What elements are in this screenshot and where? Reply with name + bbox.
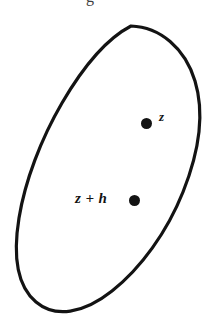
- point-marker-z: [141, 118, 152, 129]
- region-boundary-svg: [0, 0, 216, 325]
- figure-canvas: g z z + h: [0, 0, 216, 325]
- point-marker-z-plus-h: [129, 195, 140, 206]
- oval-region-path: [16, 26, 199, 312]
- point-label-z: z: [159, 110, 164, 123]
- point-label-z-plus-h: z + h: [75, 191, 107, 206]
